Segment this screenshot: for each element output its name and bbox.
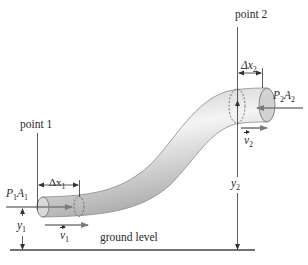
a2-subscript: 2 (291, 95, 295, 104)
p1-symbol: P (6, 187, 13, 199)
v2-subscript: 2 (249, 140, 253, 149)
dx2-label: Δx2 (241, 60, 257, 74)
dx2-subscript: 2 (253, 65, 257, 74)
ground-level-label: ground level (100, 232, 158, 244)
v2-label: v2 (244, 135, 253, 149)
point2-label: point 2 (235, 9, 267, 21)
dx1-symbol: Δx (49, 176, 62, 188)
a2-symbol: A (284, 89, 291, 101)
diagram-canvas (0, 0, 308, 265)
y1-label: y1 (17, 220, 26, 234)
p2a2-label: P2A2 (273, 90, 295, 104)
p2-symbol: P (273, 89, 280, 101)
v1-subscript: 1 (65, 235, 69, 244)
dx2-symbol: Δx (241, 59, 253, 71)
v1-vector-symbol: v (60, 230, 65, 242)
p1a1-label: P1A1 (6, 188, 28, 202)
y1-subscript: 1 (22, 225, 26, 234)
dx1-subscript: 1 (62, 182, 66, 191)
dx1-label: Δx1 (49, 177, 66, 191)
y2-label: y2 (231, 177, 240, 193)
v2-vector-symbol: v (244, 135, 249, 147)
y2-subscript: 2 (236, 183, 240, 192)
a1-subscript: 1 (24, 193, 28, 202)
v1-label: v1 (60, 230, 69, 244)
a1-symbol: A (17, 187, 24, 199)
bernoulli-pipe-diagram: point 1 point 2 Δx1 Δx2 P1A1 P2A2 v1 v2 … (0, 0, 308, 265)
point1-label: point 1 (20, 119, 52, 131)
